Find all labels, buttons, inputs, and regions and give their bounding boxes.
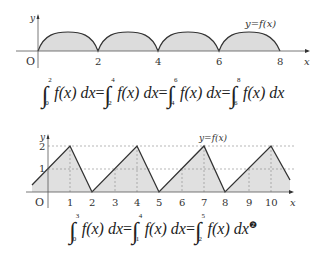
bottom-curve-label: y=f(x) <box>198 133 228 143</box>
top-chart: y x O 2 4 6 8 y=f(x) <box>16 13 310 68</box>
top-tick-6: 6 <box>216 56 222 67</box>
bottom-x-ticks: 1 2 3 4 5 6 7 8 9 10 <box>67 197 278 208</box>
top-origin-label: O <box>26 55 35 68</box>
integral-limits: 30 <box>76 218 82 238</box>
top-tick-2: 2 <box>95 56 101 67</box>
svg-text:6: 6 <box>179 197 185 208</box>
integrand: f(x) dx <box>145 220 186 237</box>
integrand: f(x) dx <box>180 84 221 101</box>
integral-limits: 41 <box>139 218 145 238</box>
svg-text:9: 9 <box>246 197 252 208</box>
bottom-x-axis-arrow-icon <box>289 190 294 194</box>
top-y-axis-arrow-icon <box>37 14 40 19</box>
integral-limits: 86 <box>237 82 243 102</box>
integrand: f(x) dx <box>82 220 123 237</box>
bottom-origin-label: O <box>35 196 44 209</box>
integrand: f(x) dx <box>243 84 284 101</box>
top-tick-4: 4 <box>155 56 161 67</box>
svg-text:1: 1 <box>67 197 73 208</box>
top-curve-label: y=f(x) <box>244 18 276 29</box>
equation-2: ∫30f(x) dx=∫41f(x) dx=∫52f(x) dx❷ <box>0 218 326 245</box>
integral-limits: 64 <box>174 82 180 102</box>
bottom-chart: y x O 2 1 1 2 3 4 5 6 7 8 9 10 y=f(x) <box>26 132 296 209</box>
integral-limits: 52 <box>202 218 208 238</box>
integrand: f(x) dx <box>54 84 95 101</box>
top-x-axis-arrow-icon <box>305 49 310 53</box>
bottom-x-label: x <box>290 197 296 208</box>
svg-text:7: 7 <box>201 197 207 208</box>
top-tick-8: 8 <box>277 56 283 67</box>
bottom-y-axis-arrow-icon <box>47 134 50 139</box>
integral-limits: 42 <box>111 82 117 102</box>
svg-text:2: 2 <box>89 197 95 208</box>
integrand: f(x) dx <box>117 84 158 101</box>
svg-text:5: 5 <box>156 197 162 208</box>
note-marker-icon: ❷ <box>249 220 257 230</box>
top-y-label: y <box>29 13 36 23</box>
bottom-ytick-1: 1 <box>39 163 45 174</box>
integrand: f(x) dx <box>208 220 249 237</box>
top-x-label: x <box>304 56 310 67</box>
svg-text:3: 3 <box>112 197 118 208</box>
svg-text:4: 4 <box>134 197 140 208</box>
svg-text:8: 8 <box>222 197 228 208</box>
equation-1: ∫20f(x) dx=∫42f(x) dx=∫64f(x) dx=∫86f(x)… <box>0 82 326 109</box>
bottom-ytick-2: 2 <box>39 141 45 152</box>
svg-text:10: 10 <box>265 197 278 208</box>
integral-limits: 20 <box>48 82 54 102</box>
